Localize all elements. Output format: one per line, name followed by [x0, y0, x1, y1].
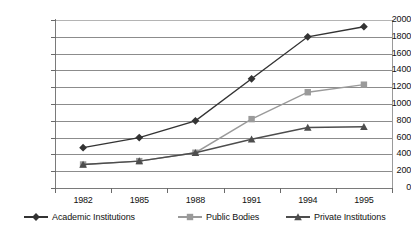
legend-item[interactable]: Academic Institutions: [24, 212, 135, 222]
legend-label: Private Institutions: [314, 212, 386, 222]
line-chart: 0200400600800100012001400160018002000 19…: [0, 0, 411, 239]
x-axis-tick-label: 1991: [222, 195, 282, 205]
legend-symbol: [294, 213, 302, 221]
legend-marker-triangle-icon: [286, 212, 310, 222]
chart-legend: Academic InstitutionsPublic BodiesPrivat…: [0, 206, 411, 239]
data-point-marker-diamond: [79, 144, 87, 152]
series-line: [83, 127, 364, 165]
x-axis-tick-mark: [336, 188, 337, 193]
plot-wrapper: 0200400600800100012001400160018002000 19…: [0, 0, 411, 205]
x-axis-tick-label: 1994: [278, 195, 338, 205]
series-line: [83, 27, 364, 148]
data-point-marker-diamond: [32, 213, 40, 221]
data-point-marker-square: [187, 214, 193, 220]
legend-item[interactable]: Public Bodies: [178, 212, 259, 222]
data-point-marker-diamond: [135, 134, 143, 142]
x-axis-tick-mark: [55, 188, 56, 193]
x-axis-tick-mark: [392, 188, 393, 193]
x-axis-tick-mark: [167, 188, 168, 193]
x-axis-tick-label: 1995: [334, 195, 394, 205]
legend-label: Academic Institutions: [52, 212, 135, 222]
legend-symbol: [186, 213, 194, 221]
series-line: [83, 85, 364, 165]
x-axis-tick-label: 1982: [53, 195, 113, 205]
data-point-marker-square: [305, 89, 311, 95]
series-layer: [55, 20, 392, 188]
data-point-marker-square: [248, 116, 254, 122]
legend-symbol: [32, 213, 40, 221]
legend-item[interactable]: Private Institutions: [286, 212, 386, 222]
data-point-marker-triangle: [294, 213, 302, 220]
x-axis-tick-mark: [224, 188, 225, 193]
legend-marker-square-icon: [178, 212, 202, 222]
data-point-marker-square: [361, 81, 367, 87]
legend-label: Public Bodies: [206, 212, 259, 222]
legend-marker-diamond-icon: [24, 212, 48, 222]
data-point-marker-diamond: [360, 23, 368, 31]
x-axis-tick-label: 1988: [165, 195, 225, 205]
x-axis-tick-mark: [111, 188, 112, 193]
x-axis-tick-mark: [280, 188, 281, 193]
x-axis-tick-label: 1985: [109, 195, 169, 205]
